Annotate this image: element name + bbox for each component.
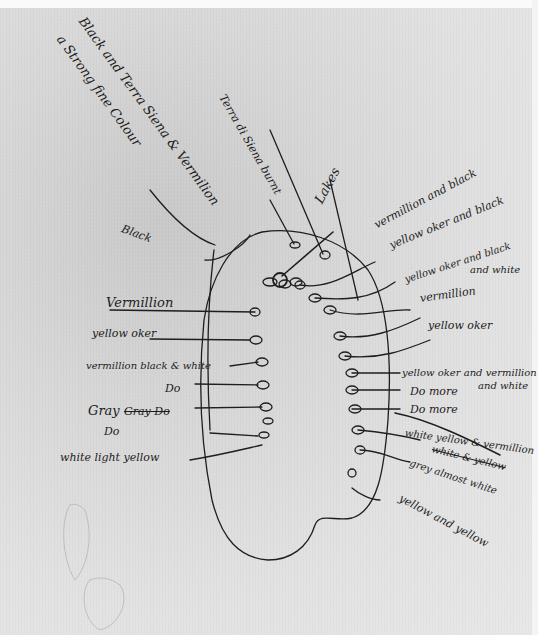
right-label: Do more [410, 386, 458, 397]
right-label: yellow oker and vermillion [402, 368, 537, 378]
left-label: Gray [88, 404, 120, 417]
left-label: yellow oker [92, 328, 156, 339]
left-label: Do [104, 426, 119, 437]
left-label: Do [165, 383, 180, 394]
palette-drawing [0, 0, 538, 635]
palette-outline [201, 231, 390, 560]
palette-sketch-page: Black and Terra Siena & Vermilion a Stro… [0, 0, 538, 635]
left-label: white light yellow [60, 452, 159, 463]
thumb-hole [150, 190, 250, 260]
left-label-struck: Gray Do [124, 406, 170, 417]
right-label: Do more [410, 404, 458, 415]
right-label: yellow oker [428, 320, 492, 331]
right-label: and white [478, 381, 528, 391]
left-label: vermillion black & white [86, 361, 211, 371]
right-label: and white [470, 265, 520, 275]
left-label: Vermillion [106, 296, 173, 309]
